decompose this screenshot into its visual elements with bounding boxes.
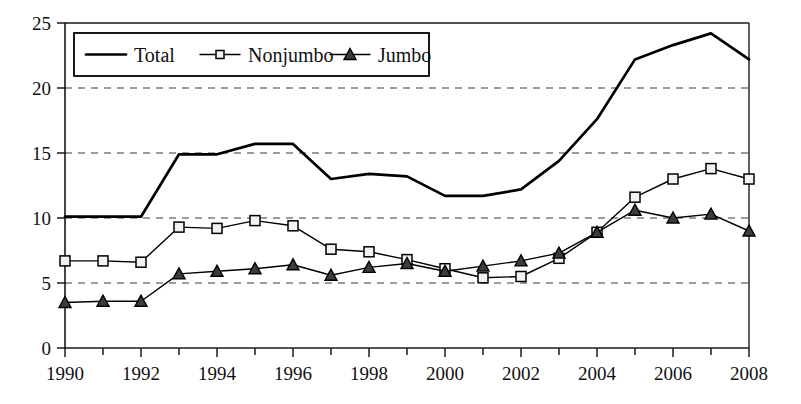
y-tick-label-5: 5 bbox=[42, 273, 52, 294]
marker-nonjumbo-2002 bbox=[516, 272, 526, 282]
marker-jumbo-2007 bbox=[705, 208, 717, 219]
legend-label-nonjumbo: Nonjumbo bbox=[248, 44, 334, 67]
marker-nonjumbo-1995 bbox=[250, 216, 260, 226]
marker-nonjumbo-2007 bbox=[706, 164, 716, 174]
marker-jumbo-2008 bbox=[743, 225, 755, 236]
marker-jumbo-2005 bbox=[629, 204, 641, 215]
gridlines bbox=[65, 88, 749, 283]
marker-nonjumbo-1998 bbox=[364, 247, 374, 257]
x-tick-label-2006: 2006 bbox=[654, 363, 692, 384]
marker-nonjumbo-1991 bbox=[98, 256, 108, 266]
x-tick-label-2008: 2008 bbox=[730, 363, 768, 384]
marker-nonjumbo-1992 bbox=[136, 257, 146, 267]
x-axis-tick-labels: 1990199219941996199820002002200420062008 bbox=[46, 363, 768, 384]
legend-label-total: Total bbox=[134, 44, 175, 66]
marker-nonjumbo-1990 bbox=[60, 256, 70, 266]
y-axis-tick-labels: 0510152025 bbox=[32, 13, 51, 359]
y-tick-label-15: 15 bbox=[32, 143, 51, 164]
marker-nonjumbo-1993 bbox=[174, 222, 184, 232]
y-tick-label-10: 10 bbox=[32, 208, 51, 229]
chart-container: 1990199219941996199820002002200420062008… bbox=[0, 0, 801, 404]
marker-nonjumbo-2005 bbox=[630, 192, 640, 202]
chart-legend: TotalNonjumboJumbo bbox=[74, 33, 431, 76]
marker-nonjumbo-2006 bbox=[668, 174, 678, 184]
marker-nonjumbo-1996 bbox=[288, 221, 298, 231]
x-tick-label-1992: 1992 bbox=[122, 363, 160, 384]
x-axis-ticks bbox=[65, 348, 749, 357]
line-chart: 1990199219941996199820002002200420062008… bbox=[0, 0, 801, 404]
x-tick-label-2000: 2000 bbox=[426, 363, 464, 384]
marker-nonjumbo-2001 bbox=[478, 273, 488, 283]
y-tick-label-25: 25 bbox=[32, 13, 51, 34]
x-tick-label-2002: 2002 bbox=[502, 363, 540, 384]
x-tick-label-1990: 1990 bbox=[46, 363, 84, 384]
marker-jumbo-1996 bbox=[287, 259, 299, 270]
legend-label-jumbo: Jumbo bbox=[378, 44, 431, 66]
y-tick-label-20: 20 bbox=[32, 78, 51, 99]
x-tick-label-2004: 2004 bbox=[578, 363, 617, 384]
marker-nonjumbo-2008 bbox=[744, 174, 754, 184]
marker-nonjumbo-1997 bbox=[326, 244, 336, 254]
x-tick-label-1994: 1994 bbox=[198, 363, 237, 384]
x-tick-label-1996: 1996 bbox=[274, 363, 312, 384]
legend-marker-nonjumbo bbox=[216, 51, 224, 59]
y-tick-label-0: 0 bbox=[42, 338, 52, 359]
marker-nonjumbo-1994 bbox=[212, 223, 222, 233]
x-tick-label-1998: 1998 bbox=[350, 363, 388, 384]
